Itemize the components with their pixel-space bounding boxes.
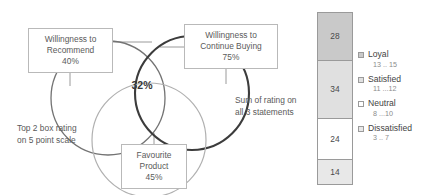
legend-item-dissatisfied: Dissatisfied 3 .. 7: [358, 124, 438, 143]
diagram-canvas: 32% Willingness to Recommend 40% Willing…: [0, 0, 439, 195]
legend-label-loyal: Loyal: [368, 50, 438, 60]
annotation-right-line1: Sum of rating on: [235, 95, 296, 107]
annotation-right: Sum of rating on all 3 statements: [235, 95, 296, 118]
legend-swatch-icon-loyal: [358, 52, 364, 58]
legend-swatch-icon-neutral: [358, 101, 364, 107]
legend-range-loyal: 13 .. 15: [368, 60, 438, 69]
legend-range-neutral: 8 ...10: [368, 109, 438, 118]
venn-label-box-favourite: Favourite Product 45%: [121, 144, 187, 189]
legend-range-satisfied: 11 ...12: [368, 84, 438, 93]
venn-label-recommend-value: 40%: [62, 56, 79, 67]
annotation-left-line2: on 5 point scale: [17, 135, 77, 147]
venn-label-favourite-line1: Favourite: [137, 150, 172, 161]
bar-segment-satisfied: 34: [318, 61, 352, 119]
legend-label-neutral: Neutral: [368, 99, 438, 109]
bar-segment-neutral: 24: [318, 119, 352, 160]
venn-label-favourite-value: 45%: [146, 172, 163, 183]
venn-label-favourite-line2: Product: [140, 161, 169, 172]
legend-item-loyal: Loyal 13 .. 15: [358, 50, 438, 69]
venn-label-recommend-line1: Willingness to: [45, 34, 97, 45]
annotation-left-line1: Top 2 box rating: [17, 123, 77, 135]
venn-label-continue-value: 75%: [223, 52, 240, 63]
venn-intersection-label: 32%: [121, 79, 163, 91]
legend-item-satisfied: Satisfied 11 ...12: [358, 75, 438, 94]
legend-label-satisfied: Satisfied: [368, 75, 438, 85]
legend: Loyal 13 .. 15 Satisfied 11 ...12 Neutra…: [358, 50, 438, 148]
legend-label-dissatisfied: Dissatisfied: [368, 124, 438, 134]
stacked-bar-chart: 28 34 24 14: [317, 12, 353, 185]
legend-swatch-icon-dissatisfied: [358, 126, 364, 132]
legend-item-neutral: Neutral 8 ...10: [358, 99, 438, 118]
venn-label-box-recommend: Willingness to Recommend 40%: [28, 28, 113, 73]
bar-segment-dissatisfied: 14: [318, 160, 352, 184]
venn-label-continue-line2: Continue Buying: [200, 41, 261, 52]
bar-segment-loyal: 28: [318, 13, 352, 61]
legend-swatch-icon-satisfied: [358, 77, 364, 83]
venn-label-box-continue: Willingness to Continue Buying 75%: [184, 24, 278, 69]
venn-label-continue-line1: Willingness to: [205, 30, 257, 41]
annotation-left: Top 2 box rating on 5 point scale: [17, 123, 77, 146]
venn-label-recommend-line2: Recommend: [47, 45, 94, 56]
annotation-right-line2: all 3 statements: [235, 107, 296, 119]
legend-range-dissatisfied: 3 .. 7: [368, 133, 438, 142]
